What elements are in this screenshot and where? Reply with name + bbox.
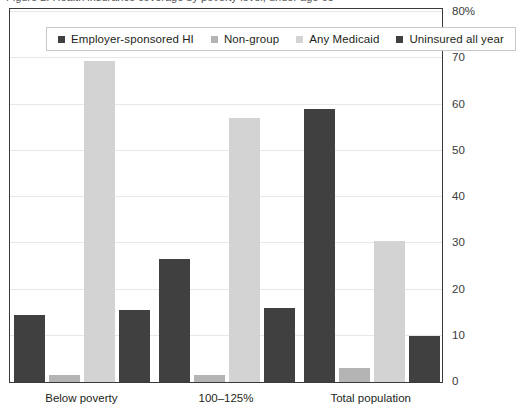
y-axis-tick-label: 70	[452, 51, 465, 63]
y-axis-tick-label: 40	[452, 190, 465, 202]
legend-item: Any Medicaid	[296, 33, 379, 45]
bar-group	[299, 9, 444, 382]
legend-label: Employer-sponsored HI	[71, 33, 194, 45]
y-axis-tick-label: 0	[452, 375, 458, 387]
bar	[229, 118, 260, 382]
bar	[339, 368, 370, 382]
bar	[264, 308, 295, 382]
chart-frame: Employer-sponsored HINon-groupAny Medica…	[9, 8, 443, 383]
bar	[119, 310, 150, 382]
bar	[374, 241, 405, 382]
y-axis-tick-label: 30	[452, 236, 465, 248]
bar	[159, 259, 190, 382]
x-axis-tick-label: 100–125%	[199, 392, 254, 404]
legend-swatch-icon	[396, 36, 403, 43]
legend-label: Any Medicaid	[309, 33, 379, 45]
x-axis-tick-label: Below poverty	[45, 392, 117, 404]
legend-label: Uninsured all year	[409, 33, 504, 45]
legend-item: Uninsured all year	[396, 33, 504, 45]
y-axis-tick-label: 20	[452, 283, 465, 295]
figure-caption-strip: Figure 2. Health insurance coverage by p…	[0, 0, 495, 6]
bar	[14, 315, 45, 382]
y-axis-tick-label: 10	[452, 329, 465, 341]
x-axis: Below poverty100–125%Total population	[9, 392, 443, 412]
bar	[304, 109, 335, 382]
plot-area	[10, 9, 442, 382]
x-axis-tick-label: Total population	[330, 392, 411, 404]
bar	[84, 61, 115, 382]
bar	[49, 375, 80, 382]
bar	[409, 336, 440, 382]
y-axis-tick-label: 80%	[452, 5, 475, 17]
chart-legend: Employer-sponsored HINon-groupAny Medica…	[46, 27, 516, 51]
legend-item: Non-group	[211, 33, 279, 45]
legend-swatch-icon	[211, 36, 218, 43]
legend-label: Non-group	[224, 33, 279, 45]
bar-group	[155, 9, 300, 382]
legend-swatch-icon	[296, 36, 303, 43]
y-axis: 01020304050607080%	[452, 0, 495, 413]
bar-group	[10, 9, 155, 382]
legend-swatch-icon	[58, 36, 65, 43]
legend-item: Employer-sponsored HI	[58, 33, 194, 45]
bar	[194, 375, 225, 382]
y-axis-tick-label: 60	[452, 98, 465, 110]
y-axis-tick-label: 50	[452, 144, 465, 156]
figure-caption: Figure 2. Health insurance coverage by p…	[6, 0, 334, 3]
